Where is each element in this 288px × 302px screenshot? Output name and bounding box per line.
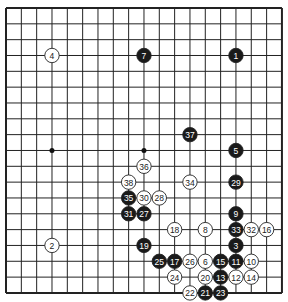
black-stone: 11 [229, 254, 243, 268]
black-stone: 5 [229, 143, 243, 157]
black-stone: 7 [137, 48, 151, 62]
move-number: 20 [201, 273, 211, 283]
move-number: 9 [234, 209, 239, 219]
white-stone: 14 [244, 270, 258, 284]
black-stone: 25 [152, 254, 166, 268]
move-number: 5 [234, 146, 239, 156]
move-number: 4 [50, 51, 55, 61]
move-number: 33 [231, 225, 241, 235]
move-number: 32 [247, 225, 257, 235]
black-stone: 1 [229, 48, 243, 62]
move-number: 25 [155, 257, 165, 267]
move-number: 24 [170, 273, 180, 283]
move-number: 34 [185, 178, 195, 188]
move-number: 22 [185, 288, 195, 298]
black-stone: 19 [137, 238, 151, 252]
white-stone: 22 [183, 286, 197, 300]
white-stone: 20 [198, 270, 212, 284]
move-number: 21 [201, 288, 211, 298]
move-number: 15 [216, 257, 226, 267]
move-number: 1 [234, 51, 239, 61]
white-stone: 26 [183, 254, 197, 268]
black-stone: 9 [229, 207, 243, 221]
black-stone: 13 [213, 270, 227, 284]
move-number: 23 [216, 288, 226, 298]
move-number: 7 [142, 51, 147, 61]
go-board: 1234567891011121314151617181920212223242… [0, 0, 288, 302]
black-stone: 31 [121, 207, 135, 221]
move-number: 36 [139, 162, 149, 172]
move-number: 13 [216, 273, 226, 283]
star-point [49, 148, 54, 153]
white-stone: 18 [167, 222, 181, 236]
white-stone: 24 [167, 270, 181, 284]
white-stone: 16 [259, 222, 273, 236]
black-stone: 17 [167, 254, 181, 268]
black-stone: 37 [183, 127, 197, 141]
move-number: 12 [231, 273, 241, 283]
star-point [141, 148, 146, 153]
white-stone: 8 [198, 222, 212, 236]
move-number: 14 [247, 273, 257, 283]
white-stone: 36 [137, 159, 151, 173]
move-number: 37 [185, 130, 195, 140]
move-number: 10 [247, 257, 257, 267]
black-stone: 35 [121, 191, 135, 205]
move-number: 30 [139, 193, 149, 203]
move-number: 28 [155, 193, 165, 203]
move-number: 11 [232, 257, 241, 267]
black-stone: 21 [198, 286, 212, 300]
white-stone: 12 [229, 270, 243, 284]
move-number: 35 [124, 193, 134, 203]
move-number: 16 [262, 225, 272, 235]
move-number: 26 [185, 257, 195, 267]
black-stone: 3 [229, 238, 243, 252]
black-stone: 23 [213, 286, 227, 300]
move-number: 29 [231, 178, 241, 188]
move-number: 2 [50, 241, 55, 251]
black-stone: 15 [213, 254, 227, 268]
move-number: 17 [170, 257, 180, 267]
white-stone: 28 [152, 191, 166, 205]
move-number: 3 [234, 241, 239, 251]
move-number: 18 [170, 225, 180, 235]
white-stone: 2 [45, 238, 59, 252]
move-number: 27 [139, 209, 149, 219]
white-stone: 10 [244, 254, 258, 268]
white-stone: 34 [183, 175, 197, 189]
black-stone: 27 [137, 207, 151, 221]
white-stone: 32 [244, 222, 258, 236]
move-number: 38 [124, 178, 134, 188]
move-number: 8 [203, 225, 208, 235]
move-number: 6 [203, 257, 208, 267]
black-stone: 33 [229, 222, 243, 236]
move-number: 31 [124, 209, 134, 219]
white-stone: 38 [121, 175, 135, 189]
white-stone: 30 [137, 191, 151, 205]
move-number: 19 [139, 241, 149, 251]
white-stone: 4 [45, 48, 59, 62]
black-stone: 29 [229, 175, 243, 189]
white-stone: 6 [198, 254, 212, 268]
